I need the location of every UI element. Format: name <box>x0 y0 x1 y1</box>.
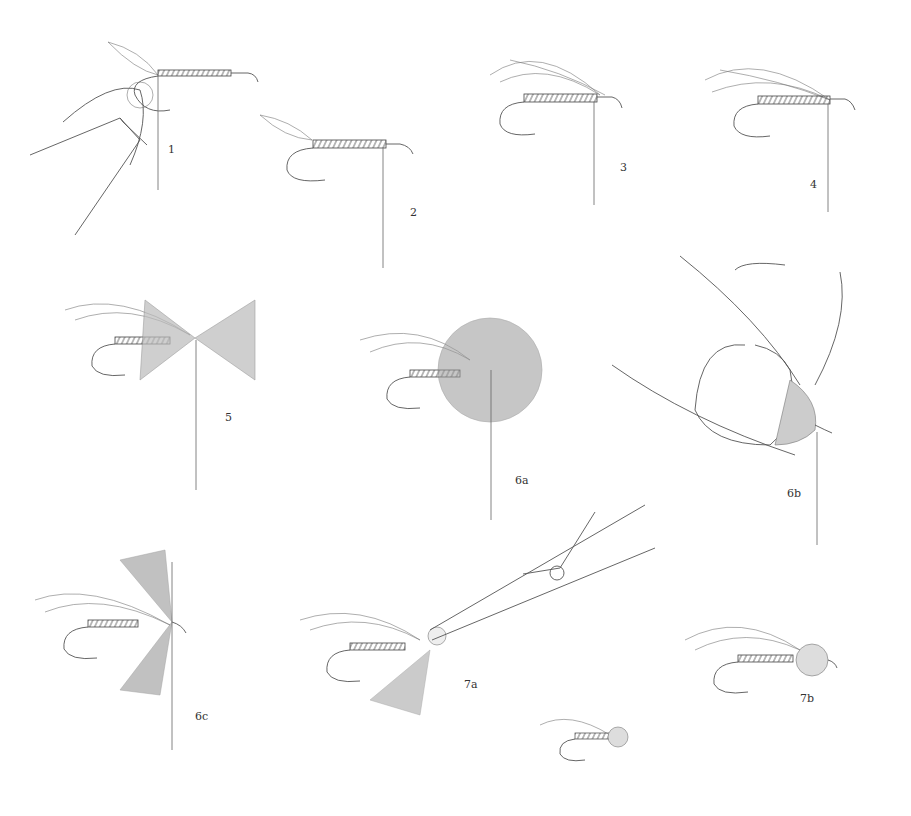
step-6c-figure <box>35 550 186 750</box>
step-3-figure <box>490 60 622 205</box>
step-label-4: 4 <box>810 178 817 191</box>
step-1-figure <box>30 42 258 235</box>
step-6b-figure <box>612 256 842 545</box>
step-label-1: 1 <box>168 143 175 156</box>
step-label-2: 2 <box>410 206 417 219</box>
finished-fly-small <box>540 719 628 760</box>
fly-tying-plate: 1 2 3 4 5 6a 6b 6c 7a 7b <box>0 0 911 816</box>
step-4-figure <box>705 69 855 212</box>
step-label-7a: 7a <box>464 678 478 691</box>
illustration-canvas <box>0 0 911 816</box>
step-label-5: 5 <box>225 411 232 424</box>
step-6a-figure <box>360 318 542 520</box>
step-label-6c: 6c <box>195 710 208 723</box>
step-label-6a: 6a <box>515 474 529 487</box>
step-label-3: 3 <box>620 161 627 174</box>
step-2-figure <box>260 115 413 268</box>
step-7b-figure <box>685 627 837 693</box>
step-label-7b: 7b <box>800 692 814 705</box>
step-5-figure <box>65 300 255 490</box>
step-label-6b: 6b <box>787 487 801 500</box>
